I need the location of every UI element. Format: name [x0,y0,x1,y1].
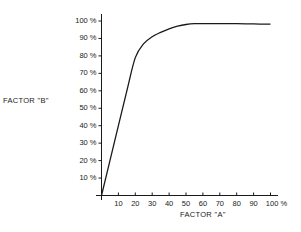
chart-area: FACTOR "B" FACTOR "A" 10 %20 %30 %40 %50… [0,0,301,232]
x-tick-label: 100 % [262,199,292,208]
y-axis-label: FACTOR "B" [3,96,49,105]
y-tick-label: 10 % [57,173,97,182]
x-axis-label: FACTOR "A" [180,210,226,219]
y-tick-label: 70 % [57,68,97,77]
y-tick-label: 100 % [57,16,97,25]
y-tick-label: 60 % [57,86,97,95]
line-chart [0,0,301,232]
data-line [102,24,271,196]
y-tick-label: 20 % [57,156,97,165]
y-tick-label: 40 % [57,121,97,130]
y-tick-label: 90 % [57,33,97,42]
y-tick-label: 50 % [57,103,97,112]
y-tick-label: 80 % [57,51,97,60]
y-tick-label: 30 % [57,138,97,147]
